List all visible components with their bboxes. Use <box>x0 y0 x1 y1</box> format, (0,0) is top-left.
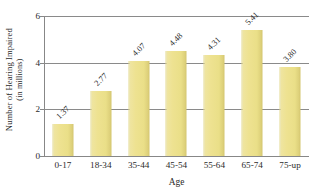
bar <box>204 55 225 156</box>
bar-slot: 5.41 <box>233 16 271 156</box>
bar-slot: 1.37 <box>44 16 82 156</box>
y-axis-tick-label: 4 <box>24 58 40 68</box>
bar-series: 1.372.774.074.484.315.413.80 <box>44 16 309 156</box>
bar <box>166 51 187 156</box>
bar <box>90 91 111 156</box>
bar <box>128 61 149 156</box>
x-axis-tick-labels: 0-1718-3435-4445-5455-6465-7475-up <box>44 160 309 176</box>
plot-area: 1.372.774.074.484.315.413.80 <box>44 16 309 156</box>
y-axis-tick-labels: 0246 <box>24 0 40 160</box>
y-axis-title-line1: Number of Hearing Impaired <box>5 28 15 131</box>
bar <box>52 124 73 156</box>
y-axis-tick-label: 6 <box>24 11 40 21</box>
bar-slot: 3.80 <box>271 16 309 156</box>
bar <box>280 67 301 156</box>
bar-value-label: 4.07 <box>130 41 147 58</box>
bar-value-label: 4.31 <box>206 36 223 53</box>
x-axis-tick-label: 65-74 <box>233 160 271 170</box>
bar-slot: 4.48 <box>158 16 196 156</box>
bar <box>242 30 263 156</box>
x-axis-tick-label: 18-34 <box>82 160 120 170</box>
y-axis-tick-label: 0 <box>24 151 40 161</box>
y-axis-tick-mark <box>40 156 44 157</box>
bar-chart: Number of Hearing Impaired (in millions)… <box>0 0 313 195</box>
x-axis-tick-label: 45-54 <box>158 160 196 170</box>
y-axis-tick-label: 2 <box>24 104 40 114</box>
x-axis-tick-label: 75-up <box>271 160 309 170</box>
gridline <box>44 156 309 157</box>
bar-value-label: 4.48 <box>168 32 185 49</box>
bar-slot: 4.31 <box>195 16 233 156</box>
bar-value-label: 5.41 <box>244 10 261 27</box>
x-axis-tick-label: 35-44 <box>120 160 158 170</box>
bar-value-label: 2.77 <box>92 72 109 89</box>
x-axis-tick-label: 0-17 <box>44 160 82 170</box>
x-axis-tick-label: 55-64 <box>195 160 233 170</box>
bar-value-label: 3.80 <box>282 48 299 65</box>
x-axis-title: Age <box>44 177 309 187</box>
bar-slot: 4.07 <box>120 16 158 156</box>
bar-value-label: 1.37 <box>55 104 72 121</box>
bar-slot: 2.77 <box>82 16 120 156</box>
